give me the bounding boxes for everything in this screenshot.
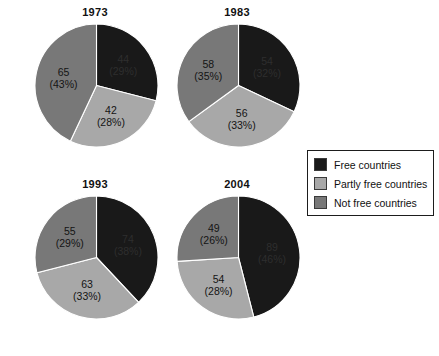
chart-legend: Free countries Partly free countries Not…	[307, 150, 434, 216]
pie-title-2004: 2004	[166, 178, 308, 190]
legend-label-partly-free-countries: Partly free countries	[334, 178, 427, 190]
pie-svg-1983	[176, 23, 301, 148]
legend-swatch-not-free-icon	[314, 196, 327, 209]
pie-svg-1993	[34, 195, 159, 320]
pie-wrap-2004: 89 (46%) 54 (28%) 49 (26%)	[176, 195, 301, 320]
pie-panel-1993: 1993 74 (38%) 63 (33%) 55 (29%)	[24, 176, 166, 346]
pie-title-1973: 1973	[24, 6, 166, 18]
legend-swatch-free-icon	[314, 158, 327, 171]
legend-label-not-free-countries: Not free countries	[334, 197, 417, 209]
pie-title-1993: 1993	[24, 178, 166, 190]
legend-item-partly-free-countries: Partly free countries	[314, 174, 428, 193]
pie-panel-1983: 1983 54 (32%) 56 (33%) 58 (35%)	[166, 4, 308, 174]
pie-svg-2004	[176, 195, 301, 320]
pie-wrap-1983: 54 (32%) 56 (33%) 58 (35%)	[176, 23, 301, 148]
legend-item-not-free-countries: Not free countries	[314, 193, 428, 212]
pie-chart-figure: 1973 44 (29%) 42 (28%) 65 (43%) 1983 54 …	[0, 0, 439, 356]
legend-item-free-countries: Free countries	[314, 155, 428, 174]
pie-panel-1973: 1973 44 (29%) 42 (28%) 65 (43%)	[24, 4, 166, 174]
pie-svg-1973	[34, 23, 159, 148]
legend-label-free-countries: Free countries	[334, 159, 401, 171]
pie-wrap-1973: 44 (29%) 42 (28%) 65 (43%)	[34, 23, 159, 148]
pie-wrap-1993: 74 (38%) 63 (33%) 55 (29%)	[34, 195, 159, 320]
pie-title-1983: 1983	[166, 6, 308, 18]
pie-panel-2004: 2004 89 (46%) 54 (28%) 49 (26%)	[166, 176, 308, 346]
legend-swatch-partly-free-icon	[314, 177, 327, 190]
